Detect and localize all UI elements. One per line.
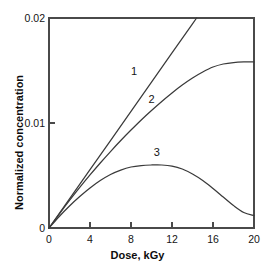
x-tick-label-0: 0 — [39, 234, 59, 245]
curve-label-2: 2 — [149, 94, 155, 105]
x-tick-label-12: 12 — [162, 234, 182, 245]
curve-3 — [49, 165, 254, 228]
chart-figure: 0.02 0.01 0 0 4 8 12 16 20 Dose, kGy Nor… — [0, 0, 275, 270]
curve-1 — [49, 18, 197, 228]
y-tick-label-bottom: 0 — [10, 223, 45, 234]
data-curves — [49, 18, 254, 228]
x-tick-label-20: 20 — [244, 234, 264, 245]
x-tick-label-4: 4 — [80, 234, 100, 245]
y-tick-label-top: 0.02 — [10, 13, 45, 24]
curve-label-3: 3 — [154, 147, 160, 158]
curve-2 — [49, 62, 254, 228]
x-tick-label-8: 8 — [121, 234, 141, 245]
y-axis-title: Normalized concentration — [14, 75, 25, 210]
curve-label-1: 1 — [131, 66, 137, 77]
x-axis-title: Dose, kGy — [0, 250, 275, 261]
x-tick-label-16: 16 — [203, 234, 223, 245]
